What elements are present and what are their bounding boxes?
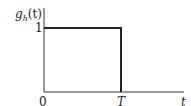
x-axis-label: t (181, 96, 186, 106)
x-tick-T: T (117, 96, 125, 106)
y-tick-1: 1 (35, 22, 43, 34)
pulse-line (44, 28, 121, 92)
pulse-chart: gh(t) 1 0 T t (0, 0, 191, 106)
x-tick-0: 0 (39, 96, 47, 106)
